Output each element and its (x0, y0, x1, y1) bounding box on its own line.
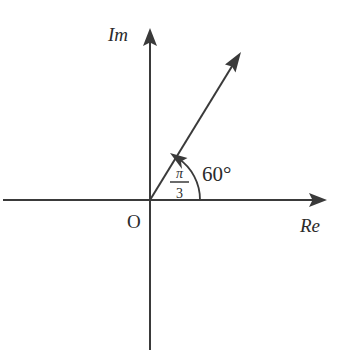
real-axis-label: Re (299, 215, 320, 236)
angle-degrees-label: 60° (202, 162, 231, 186)
angle-radians-numerator: π (176, 166, 184, 181)
complex-vector-arrowhead (225, 52, 241, 73)
angle-radians-denominator: 3 (176, 186, 183, 201)
complex-plane-figure: Im Re O 60° π 3 (0, 0, 347, 359)
origin-label: O (127, 211, 141, 232)
figure-canvas: Im Re O 60° π 3 (0, 0, 347, 359)
imaginary-axis-label: Im (107, 24, 128, 45)
